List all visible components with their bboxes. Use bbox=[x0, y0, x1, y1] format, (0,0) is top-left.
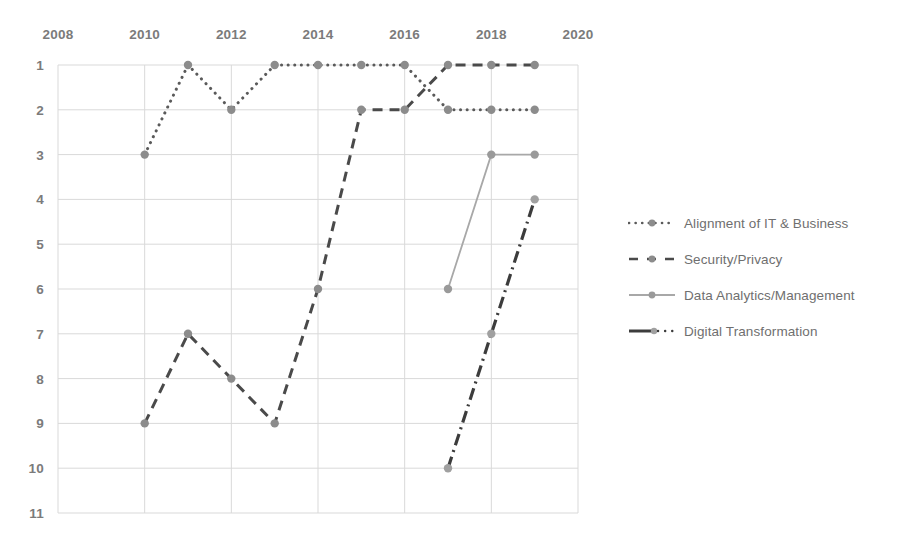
data-point-marker bbox=[487, 330, 495, 338]
y-tick-label: 3 bbox=[10, 147, 44, 162]
data-point-marker bbox=[487, 150, 495, 158]
legend-key-dashed-icon bbox=[628, 252, 676, 266]
data-point-marker bbox=[487, 106, 495, 114]
y-tick-label: 1 bbox=[10, 58, 44, 73]
y-tick-label: 8 bbox=[10, 371, 44, 386]
y-tick-label: 2 bbox=[10, 102, 44, 117]
data-point-marker bbox=[314, 285, 322, 293]
legend-item-data-analytics-management: Data Analytics/Management bbox=[628, 277, 908, 313]
data-point-marker bbox=[401, 106, 409, 114]
x-tick-label: 2012 bbox=[216, 27, 247, 42]
y-tick-label: 11 bbox=[10, 506, 44, 521]
y-tick-label: 5 bbox=[10, 237, 44, 252]
legend-item-digital-transformation: Digital Transformation bbox=[628, 313, 908, 349]
data-point-marker bbox=[531, 150, 539, 158]
x-tick-label: 2008 bbox=[43, 27, 74, 42]
legend-label: Digital Transformation bbox=[684, 324, 818, 339]
line-chart: 2008201020122014201620182020 12345678910… bbox=[0, 0, 914, 545]
data-point-marker bbox=[141, 150, 149, 158]
legend-key-dotted-icon bbox=[628, 216, 676, 230]
data-point-marker bbox=[487, 61, 495, 69]
y-tick-label: 6 bbox=[10, 282, 44, 297]
data-point-marker bbox=[227, 374, 235, 382]
chart-legend: Alignment of IT & Business Security/Priv… bbox=[628, 205, 908, 349]
legend-label: Data Analytics/Management bbox=[684, 288, 855, 303]
x-tick-label: 2020 bbox=[563, 27, 594, 42]
data-point-marker bbox=[184, 61, 192, 69]
legend-key-dashdot-icon bbox=[628, 324, 676, 338]
legend-item-security-privacy: Security/Privacy bbox=[628, 241, 908, 277]
data-point-marker bbox=[531, 195, 539, 203]
data-point-marker bbox=[401, 61, 409, 69]
legend-item-alignment-of-it-and-business: Alignment of IT & Business bbox=[628, 205, 908, 241]
x-tick-label: 2016 bbox=[389, 27, 420, 42]
data-point-marker bbox=[531, 61, 539, 69]
data-point-marker bbox=[444, 106, 452, 114]
data-point-marker bbox=[444, 285, 452, 293]
data-point-marker bbox=[444, 61, 452, 69]
data-point-marker bbox=[314, 61, 322, 69]
y-tick-label: 9 bbox=[10, 416, 44, 431]
legend-key-solid-icon bbox=[628, 288, 676, 302]
y-tick-label: 7 bbox=[10, 326, 44, 341]
data-point-marker bbox=[357, 61, 365, 69]
data-point-marker bbox=[227, 106, 235, 114]
data-point-marker bbox=[271, 61, 279, 69]
data-point-marker bbox=[271, 419, 279, 427]
legend-label: Security/Privacy bbox=[684, 252, 782, 267]
x-tick-label: 2014 bbox=[303, 27, 334, 42]
y-tick-label: 10 bbox=[10, 461, 44, 476]
y-tick-label: 4 bbox=[10, 192, 44, 207]
data-point-marker bbox=[141, 419, 149, 427]
data-point-marker bbox=[444, 464, 452, 472]
x-tick-label: 2010 bbox=[129, 27, 160, 42]
data-point-marker bbox=[184, 330, 192, 338]
x-tick-label: 2018 bbox=[476, 27, 507, 42]
data-point-marker bbox=[531, 106, 539, 114]
legend-label: Alignment of IT & Business bbox=[684, 216, 848, 231]
data-point-marker bbox=[357, 106, 365, 114]
